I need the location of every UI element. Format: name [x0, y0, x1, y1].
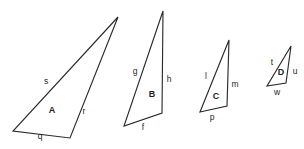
triangle-name-label-c: C [213, 92, 220, 101]
triangle-a [13, 17, 118, 138]
side-label-p: p [210, 113, 215, 122]
side-label-g: g [133, 67, 138, 76]
side-label-u: u [293, 67, 298, 76]
triangle-name-label-b: B [149, 90, 156, 99]
side-label-r: r [83, 107, 86, 116]
triangle-name-label-d: D [278, 68, 285, 77]
triangles-svg [0, 0, 304, 149]
triangle-b [124, 11, 163, 126]
triangle-name-label-a: A [49, 106, 56, 115]
side-label-h: h [167, 75, 172, 84]
triangles-diagram: AsrqBghfClmpDtuw [0, 0, 304, 149]
side-label-s: s [44, 77, 48, 86]
side-label-f: f [142, 123, 144, 132]
side-label-t: t [271, 58, 273, 67]
side-label-w: w [274, 88, 280, 97]
side-label-q: q [38, 132, 43, 141]
side-label-m: m [231, 80, 238, 89]
side-label-l: l [205, 72, 207, 81]
